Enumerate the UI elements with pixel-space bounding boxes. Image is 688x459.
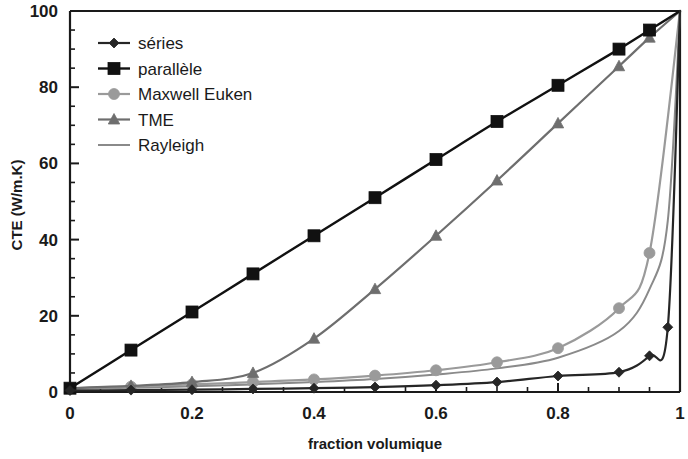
y-tick-label: 0 bbox=[49, 383, 58, 402]
legend-marker-sample bbox=[109, 38, 119, 48]
data-point-marker bbox=[370, 370, 381, 381]
legend-item-maxwell-euken: Maxwell Euken bbox=[98, 85, 252, 104]
data-point-marker bbox=[613, 43, 625, 55]
x-tick-label: 1 bbox=[675, 404, 684, 423]
data-point-marker bbox=[492, 377, 502, 387]
y-axis-title: CTE (W/m.K) bbox=[8, 160, 25, 251]
x-tick-label: 0 bbox=[65, 404, 74, 423]
y-axis-ticks bbox=[70, 11, 79, 392]
chart-figure: 020406080100 00.20.40.60.81 sériesparall… bbox=[0, 0, 688, 459]
y-tick-label: 80 bbox=[39, 78, 58, 97]
data-point-marker bbox=[553, 343, 564, 354]
data-point-marker bbox=[614, 303, 625, 314]
data-point-marker bbox=[644, 24, 656, 36]
legend-item-rayleigh: Rayleigh bbox=[98, 136, 204, 155]
plot-svg: 020406080100 00.20.40.60.81 sériesparall… bbox=[0, 0, 688, 459]
x-tick-label: 0.6 bbox=[424, 404, 448, 423]
data-point-marker bbox=[308, 230, 320, 242]
data-point-marker bbox=[431, 380, 441, 390]
legend-label: parallèle bbox=[138, 60, 202, 79]
x-axis-title: fraction volumique bbox=[308, 435, 442, 452]
legend-label: séries bbox=[138, 34, 183, 53]
y-tick-label: 20 bbox=[39, 307, 58, 326]
data-point-marker bbox=[186, 306, 198, 318]
data-point-marker bbox=[430, 154, 442, 166]
legend-marker-sample bbox=[109, 89, 120, 100]
legend-item-parallèle: parallèle bbox=[98, 60, 202, 79]
legend-label: Maxwell Euken bbox=[138, 85, 252, 104]
x-tick-label: 0.2 bbox=[180, 404, 204, 423]
data-point-marker bbox=[663, 322, 673, 332]
legend-item-tme: TME bbox=[98, 111, 174, 130]
data-point-marker bbox=[492, 357, 503, 368]
legend-item-séries: séries bbox=[98, 34, 183, 53]
data-point-marker bbox=[125, 344, 137, 356]
legend-label: TME bbox=[138, 111, 174, 130]
y-axis-tick-labels: 020406080100 bbox=[30, 2, 58, 402]
chart-legend: sériesparallèleMaxwell EukenTMERayleigh bbox=[98, 34, 252, 155]
data-point-marker bbox=[247, 268, 259, 280]
data-point-marker bbox=[491, 115, 503, 127]
data-point-marker bbox=[552, 79, 564, 91]
data-point-marker bbox=[553, 371, 563, 381]
x-axis-tick-labels: 00.20.40.60.81 bbox=[65, 404, 684, 423]
data-point-marker bbox=[644, 247, 655, 258]
y-tick-label: 60 bbox=[39, 154, 58, 173]
data-point-marker bbox=[614, 367, 624, 377]
data-point-marker bbox=[369, 192, 381, 204]
legend-marker-sample bbox=[108, 63, 120, 75]
data-point-marker bbox=[431, 365, 442, 376]
x-tick-label: 0.8 bbox=[546, 404, 570, 423]
data-point-marker bbox=[308, 333, 319, 344]
y-tick-label: 40 bbox=[39, 231, 58, 250]
legend-label: Rayleigh bbox=[138, 136, 204, 155]
x-tick-label: 0.4 bbox=[302, 404, 326, 423]
y-tick-label: 100 bbox=[30, 2, 58, 21]
data-point-marker bbox=[370, 382, 380, 392]
